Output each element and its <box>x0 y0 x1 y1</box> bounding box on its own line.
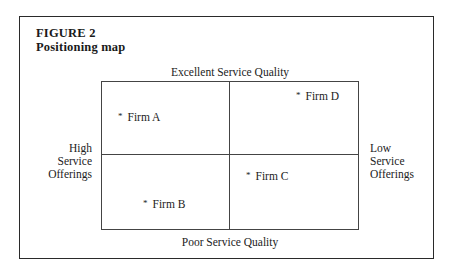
axis-label-right-line-1: Low <box>370 142 430 155</box>
firm-label: Firm B <box>153 198 186 210</box>
figure-title: Positioning map <box>36 40 125 54</box>
axis-label-left-line-3: Offerings <box>40 168 92 181</box>
firm-label: Firm A <box>128 111 161 123</box>
axis-label-bottom: Poor Service Quality <box>101 236 359 249</box>
axis-label-right-line-3: Offerings <box>370 168 430 181</box>
vertical-axis-line <box>229 81 230 230</box>
asterisk-marker-icon: * <box>296 90 301 100</box>
axis-label-left: High Service Offerings <box>40 142 92 181</box>
axis-label-top: Excellent Service Quality <box>101 66 359 79</box>
firm-point-b: *Firm B <box>143 197 185 211</box>
axis-label-right-line-2: Service <box>370 155 430 168</box>
horizontal-axis-line <box>101 154 359 155</box>
firm-point-c: *Firm C <box>246 169 288 183</box>
figure-label: FIGURE 2 <box>36 26 125 40</box>
firm-label: Firm C <box>256 170 289 182</box>
axis-label-left-line-2: Service <box>40 155 92 168</box>
figure-heading: FIGURE 2 Positioning map <box>36 26 125 54</box>
asterisk-marker-icon: * <box>143 198 148 208</box>
firm-label: Firm D <box>306 90 340 102</box>
firm-point-d: *Firm D <box>296 89 339 103</box>
asterisk-marker-icon: * <box>246 170 251 180</box>
positioning-map-box <box>101 81 359 230</box>
firm-point-a: *Firm A <box>118 110 160 124</box>
axis-label-right: Low Service Offerings <box>370 142 430 181</box>
axis-label-left-line-1: High <box>40 142 92 155</box>
asterisk-marker-icon: * <box>118 111 123 121</box>
